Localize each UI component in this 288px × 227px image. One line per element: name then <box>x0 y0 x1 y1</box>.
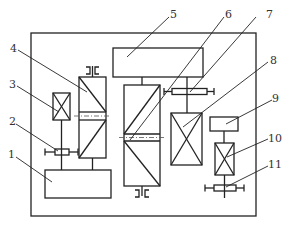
component-1-box <box>45 170 111 198</box>
label-9: 9 <box>272 92 279 105</box>
label-4: 4 <box>10 42 17 55</box>
label-8: 8 <box>270 54 277 67</box>
label-7: 7 <box>266 8 273 21</box>
label-10: 10 <box>268 132 282 145</box>
label-11: 11 <box>268 158 282 171</box>
label-5: 5 <box>170 8 177 21</box>
component-4 <box>79 66 106 158</box>
transmission-diagram: 1 2 3 4 5 6 7 8 9 10 11 <box>0 0 288 227</box>
component-6 <box>124 77 160 197</box>
label-3: 3 <box>9 78 16 91</box>
label-1: 1 <box>8 148 15 161</box>
component-10 <box>215 143 234 175</box>
label-2: 2 <box>9 115 16 128</box>
component-9-box <box>210 117 238 131</box>
component-7-coupling <box>164 88 214 95</box>
component-3 <box>53 93 70 120</box>
enclosure-frame <box>31 33 256 216</box>
label-6: 6 <box>225 8 232 21</box>
component-8 <box>171 113 202 165</box>
